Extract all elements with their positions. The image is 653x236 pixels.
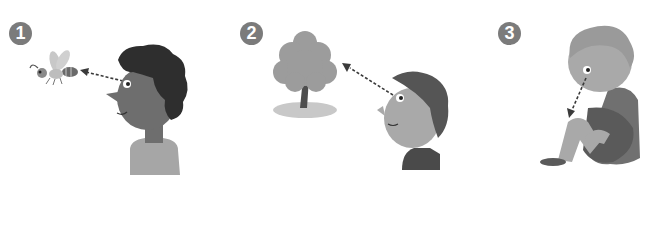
boy-looking-at-bee-illustration — [0, 0, 220, 180]
bee-icon — [30, 48, 78, 85]
child-figure — [540, 26, 640, 166]
girl-looking-at-tree-illustration — [220, 0, 440, 180]
tree-icon — [273, 31, 337, 118]
child-looking-at-knee-illustration — [440, 0, 653, 180]
panel-2: 2 — [220, 0, 440, 180]
boy-figure — [106, 45, 188, 175]
panel-3: 3 — [440, 0, 653, 180]
panel-1: 1 — [0, 0, 220, 180]
girl-figure — [377, 71, 448, 170]
